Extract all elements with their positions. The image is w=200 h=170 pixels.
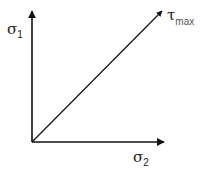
axes-diagram <box>0 0 200 170</box>
tau-max-label: τmax <box>167 8 194 23</box>
sigma-1-label: σ1 <box>7 22 23 37</box>
sigma-2-label: σ2 <box>133 150 149 165</box>
diagonal-arrow <box>32 11 162 142</box>
